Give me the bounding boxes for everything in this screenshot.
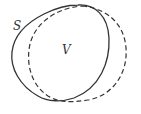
label-v: V [62, 44, 71, 56]
dashed-curve-v [29, 6, 127, 102]
label-s: S [13, 20, 21, 32]
region-diagram [0, 0, 141, 114]
solid-curve-s [12, 5, 109, 101]
